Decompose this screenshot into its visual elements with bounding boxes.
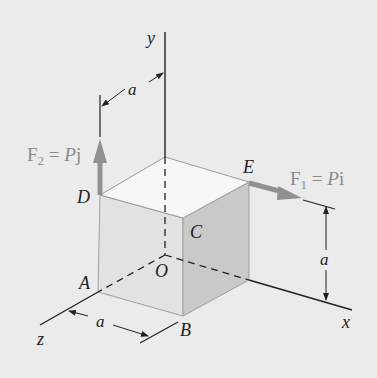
point-label-c: C <box>190 222 203 242</box>
point-label-a: A <box>78 273 91 293</box>
axis-label-z: z <box>36 329 44 349</box>
dim-label-right: a <box>320 250 329 269</box>
dim-extension-bottom <box>140 322 178 343</box>
point-label-d: D <box>76 187 90 207</box>
force-f1-label: F1 = Pi <box>290 168 344 192</box>
dim-arrow-top-left <box>102 89 125 106</box>
axis-label-y: y <box>145 28 155 48</box>
cube-force-diagram: a a a F2 = Pj F1 = Pi y x z D E C O A <box>0 0 377 378</box>
axis-label-x: x <box>341 312 350 332</box>
dim-arrow-bottom-right <box>113 325 148 336</box>
force-f2-arrowhead <box>93 139 107 163</box>
point-label-o: O <box>155 261 168 281</box>
point-label-b: B <box>180 320 191 340</box>
point-label-e: E <box>242 157 254 177</box>
dim-label-bottom: a <box>96 312 105 331</box>
force-f2-label: F2 = Pj <box>27 144 81 168</box>
z-axis <box>40 292 98 325</box>
dim-arrow-bottom-left <box>69 311 88 316</box>
dim-arrow-top-right <box>149 73 163 82</box>
dim-label-top: a <box>128 80 137 99</box>
x-axis <box>249 280 352 310</box>
diagram-canvas: a a a F2 = Pj F1 = Pi y x z D E C O A <box>0 0 377 378</box>
dim-extension-right <box>303 200 335 209</box>
